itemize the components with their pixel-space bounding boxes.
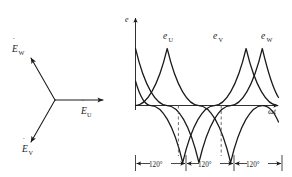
phasor-label-ew-symbol: E <box>11 44 18 54</box>
phasor-label-ew-dot: ˙ <box>13 37 16 46</box>
interval-label-3: 120° <box>246 161 260 169</box>
interval-label-2: 120° <box>198 161 212 169</box>
chart-y-axis-label: e <box>125 15 129 24</box>
three-phase-waveform-chart: e ωt <box>125 15 282 171</box>
curve-label-ev: e V <box>213 31 224 43</box>
three-phase-phasor-diagram: E ˙ U E ˙ W E ˙ V <box>11 37 103 156</box>
phasor-label-ev-dot: ˙ <box>23 137 26 146</box>
phasor-arrow-ev <box>31 100 55 142</box>
phasor-label-ew-subscript: W <box>19 49 25 56</box>
phasor-label-eu: E ˙ U <box>80 99 92 118</box>
curve-label-ew-subscript: W <box>267 36 273 43</box>
curve-label-eu-subscript: U <box>169 36 174 43</box>
curve-label-ev-subscript: V <box>219 36 224 43</box>
curve-label-eu-symbol: e <box>163 31 167 41</box>
phasor-arrow-ew <box>31 58 55 100</box>
curve-label-ew: e W <box>261 31 273 43</box>
phasor-label-eu-symbol: E <box>80 106 87 116</box>
phasor-label-ew: E ˙ W <box>11 37 25 56</box>
curve-label-ev-symbol: e <box>213 31 217 41</box>
phasor-label-ev-subscript: V <box>29 149 34 156</box>
interval-segment-3: 120° <box>235 161 281 169</box>
figure-canvas: E ˙ U E ˙ W E ˙ V e <box>0 0 292 177</box>
interval-label-1: 120° <box>149 161 163 169</box>
phasor-label-eu-subscript: U <box>87 111 92 118</box>
curve-label-eu: e U <box>163 31 174 43</box>
phasor-label-ev-symbol: E <box>21 144 28 154</box>
phasor-label-ev: E ˙ V <box>21 137 34 156</box>
curve-label-ew-symbol: e <box>261 31 265 41</box>
interval-segment-1: 120° <box>137 161 186 169</box>
interval-segment-2: 120° <box>187 161 233 169</box>
phasor-label-eu-dot: ˙ <box>82 99 85 108</box>
interval-markers: 120° 120° 120° <box>136 155 283 171</box>
figure-root: E ˙ U E ˙ W E ˙ V e <box>0 0 292 177</box>
